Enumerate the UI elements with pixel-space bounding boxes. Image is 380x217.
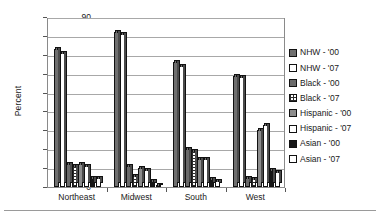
legend-item: Hispanic - '00: [289, 106, 379, 121]
legend-item-label: Hispanic - '00: [300, 109, 351, 118]
legend-item: Asian - '00: [289, 136, 379, 151]
legend-item-label: Black - '07: [300, 94, 339, 103]
bar: [54, 49, 59, 187]
legend-item: Black - '00: [289, 75, 379, 90]
legend-item-label: Black - '00: [300, 79, 339, 88]
bar: [114, 32, 119, 187]
legend: NHW - '00NHW - '07Black - '00Black - '07…: [289, 45, 379, 167]
plot-area: [47, 18, 285, 188]
bar-group: [108, 19, 168, 187]
x-axis-tick-label: Northeast: [47, 192, 107, 202]
bar: [156, 185, 161, 187]
legend-item: Hispanic - '07: [289, 121, 379, 136]
bar: [173, 62, 178, 187]
legend-item-label: NHW - '07: [300, 64, 339, 73]
legend-swatch-icon: [289, 79, 297, 87]
legend-item: Black - '07: [289, 91, 379, 106]
bar-group: [167, 19, 227, 187]
legend-swatch-icon: [289, 64, 297, 72]
legend-item: NHW - '00: [289, 45, 379, 60]
x-axis-tick-mark: [285, 188, 286, 192]
legend-item-label: NHW - '00: [300, 48, 339, 57]
legend-item: NHW - '07: [289, 60, 379, 75]
legend-swatch-icon: [289, 94, 297, 102]
figure-bottom-rule: [4, 210, 376, 211]
legend-swatch-icon: [289, 155, 297, 163]
legend-swatch-icon: [289, 109, 297, 117]
legend-swatch-icon: [289, 49, 297, 57]
bar-group: [227, 19, 287, 187]
bar-chart-figure: Percent 0102030405060708090 NortheastMid…: [0, 0, 380, 217]
legend-swatch-icon: [289, 140, 297, 148]
legend-item-label: Asian - '07: [300, 155, 340, 164]
bar-group: [48, 19, 108, 187]
x-axis-tick-label: South: [166, 192, 226, 202]
bar: [233, 76, 238, 187]
x-axis-tick-label: West: [226, 192, 286, 202]
legend-item-label: Asian - '00: [300, 139, 340, 148]
y-axis-title: Percent: [13, 66, 23, 136]
legend-item-label: Hispanic - '07: [300, 124, 351, 133]
legend-swatch-icon: [289, 125, 297, 133]
legend-item: Asian - '07: [289, 151, 379, 166]
x-axis-tick-label: Midwest: [107, 192, 167, 202]
